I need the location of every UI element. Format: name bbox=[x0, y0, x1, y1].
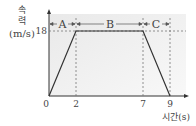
interval-label-a: A bbox=[58, 18, 68, 31]
x-tick-7: 7 bbox=[140, 99, 146, 109]
x-tick-2: 2 bbox=[73, 99, 79, 109]
y-label-line-1: 속 bbox=[18, 5, 26, 15]
x-tick-9: 9 bbox=[167, 99, 173, 109]
x-axis-label: 시간(s) bbox=[162, 112, 190, 122]
y-tick-18: 18 bbox=[36, 26, 48, 36]
y-label-unit: (m/s) bbox=[9, 28, 35, 39]
x-tick-0: 0 bbox=[43, 99, 49, 109]
interval-label-c: C bbox=[152, 18, 160, 31]
y-label-line-2: 력 bbox=[18, 15, 26, 26]
speed-time-chart: A B C 속 력 (m/s) 18 0 2 7 9 시간(s) bbox=[0, 0, 196, 126]
y-axis-arrow-icon bbox=[47, 9, 51, 14]
interval-label-b: B bbox=[106, 18, 114, 31]
x-axis-arrow-icon bbox=[184, 94, 189, 98]
